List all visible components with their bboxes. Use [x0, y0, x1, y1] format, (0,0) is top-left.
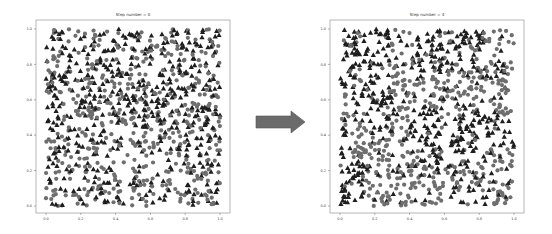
- scatter-plot-step-4: Step number = 4 0.00.20.40.60.81.00.00.2…: [294, 0, 552, 234]
- x-tick-label: 0.0: [337, 217, 343, 221]
- plot-canvas: 0.00.20.40.60.81.00.00.20.40.60.81.0: [0, 0, 245, 234]
- x-tick-label: 0.8: [476, 217, 482, 221]
- y-tick-label: 0.2: [26, 169, 32, 173]
- y-tick-label: 1.0: [26, 27, 32, 31]
- x-tick-label: 0.6: [148, 217, 154, 221]
- y-tick-label: 0.0: [26, 204, 32, 208]
- x-tick-label: 1.0: [217, 217, 223, 221]
- x-tick-label: 0.2: [78, 217, 84, 221]
- plot-title: Step number = 4: [330, 12, 524, 17]
- x-tick-label: 0.4: [113, 217, 119, 221]
- y-tick-label: 0.6: [320, 98, 326, 102]
- x-tick-label: 0.0: [43, 217, 49, 221]
- plot-canvas: 0.00.20.40.60.81.00.00.20.40.60.81.0: [294, 0, 552, 234]
- plot-title: Step number = 0: [36, 12, 230, 17]
- y-tick-label: 0.0: [320, 204, 326, 208]
- x-tick-label: 0.8: [182, 217, 188, 221]
- y-tick-label: 1.0: [320, 27, 326, 31]
- y-tick-label: 0.4: [26, 133, 32, 137]
- y-tick-label: 0.8: [320, 63, 326, 67]
- scatter-plot-step-0: Step number = 0 0.00.20.40.60.81.00.00.2…: [0, 0, 245, 234]
- y-tick-label: 0.8: [26, 63, 32, 67]
- x-tick-label: 0.6: [442, 217, 448, 221]
- x-tick-label: 0.4: [407, 217, 413, 221]
- y-tick-label: 0.6: [26, 98, 32, 102]
- y-tick-label: 0.4: [320, 133, 326, 137]
- y-tick-label: 0.2: [320, 169, 326, 173]
- x-tick-label: 1.0: [511, 217, 517, 221]
- x-tick-label: 0.2: [372, 217, 378, 221]
